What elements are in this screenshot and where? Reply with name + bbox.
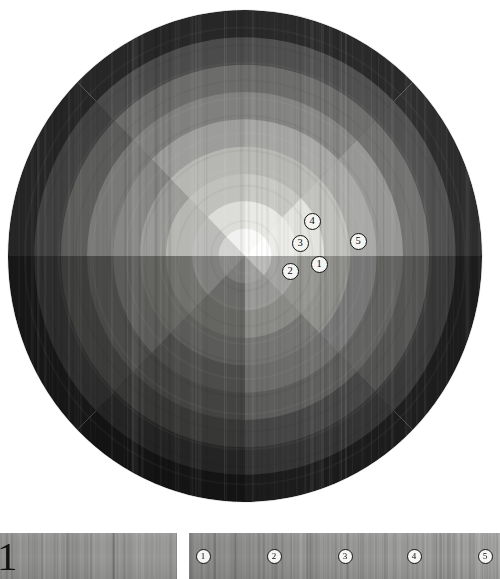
polar-marker-label: 4: [309, 216, 314, 227]
streak-line: [90, 0, 91, 512]
streak-line: [304, 0, 307, 512]
streak-line: [484, 0, 486, 512]
strip-marker-5[interactable]: 5: [478, 549, 493, 564]
streak-line: [1, 0, 3, 512]
streak-line: [477, 0, 478, 512]
streak-line: [451, 0, 453, 512]
streak-line: [432, 0, 435, 512]
streak-line: [240, 0, 243, 512]
streak-line: [309, 0, 310, 512]
streak-line: [190, 0, 192, 512]
streak-line: [77, 0, 79, 512]
streak-line: [128, 0, 130, 512]
streak-line: [324, 0, 326, 512]
streak-line: [168, 0, 170, 512]
streak-line: [336, 0, 338, 512]
streak-line: [287, 0, 289, 512]
streak-line: [132, 0, 135, 512]
streak-line: [385, 0, 386, 512]
streak-line: [226, 0, 227, 512]
streak-line: [73, 0, 74, 512]
streak-line: [95, 0, 96, 512]
streak-line: [376, 0, 379, 512]
streak-line: [124, 0, 125, 512]
streak-line: [416, 0, 418, 512]
streak-line: [5, 0, 7, 512]
streak-line: [454, 0, 457, 512]
streak-line: [274, 0, 275, 512]
streak-line: [49, 0, 50, 512]
strip-marker-label: 2: [272, 552, 277, 561]
streak-line: [410, 0, 412, 512]
streak-line: [111, 0, 113, 512]
polar-marker-2[interactable]: 2: [282, 263, 299, 280]
streak-line: [366, 0, 368, 512]
streak-line: [31, 0, 34, 512]
streak-line: [98, 0, 99, 512]
streak-line: [37, 0, 39, 512]
streak-line: [495, 0, 496, 512]
strip-marker-label: 4: [412, 552, 417, 561]
streak-line: [331, 0, 333, 512]
streak-line: [155, 0, 158, 512]
strip-marker-3[interactable]: 3: [338, 549, 353, 564]
polar-marker-1[interactable]: 1: [311, 256, 328, 273]
strip-marker-label: 3: [343, 552, 348, 561]
streak-line: [343, 0, 344, 512]
strip-marker-2[interactable]: 2: [267, 549, 282, 564]
polar-marker-5[interactable]: 5: [350, 233, 367, 250]
streak-line: [459, 0, 462, 512]
streak-line: [266, 0, 269, 512]
streak-line: [60, 0, 63, 512]
strip-left-label: 1: [0, 534, 18, 578]
polar-marker-label: 5: [355, 236, 360, 247]
streak-line: [339, 0, 342, 512]
streak-line: [13, 0, 14, 512]
streak-line: [441, 0, 442, 512]
streak-line: [371, 0, 372, 512]
streak-line: [408, 0, 410, 512]
streak-line: [333, 0, 335, 512]
streak-line: [383, 0, 384, 512]
streak-line: [44, 0, 47, 512]
streak-line: [256, 0, 258, 512]
figure-root: 12345 1 12345: [0, 0, 500, 579]
streak-line: [146, 0, 147, 512]
streak-line: [0, 0, 3, 512]
polar-marker-4[interactable]: 4: [304, 213, 321, 230]
streak-line: [195, 0, 197, 512]
streak-line: [472, 0, 475, 512]
streak-line: [224, 0, 225, 512]
streak-line: [162, 0, 165, 512]
polar-marker-3[interactable]: 3: [292, 235, 309, 252]
streak-line: [478, 0, 480, 512]
strip-marker-label: 5: [483, 552, 488, 561]
streak-line: [54, 0, 57, 512]
streak-line: [0, 0, 1, 512]
streak-line: [3, 0, 6, 512]
streak-line: [496, 0, 497, 512]
strip-left-canvas: [0, 533, 177, 579]
polar-marker-label: 2: [287, 266, 292, 277]
streak-line: [204, 0, 205, 512]
streak-line: [248, 0, 250, 512]
polar-marker-label: 1: [316, 259, 321, 270]
polar-marker-label: 3: [297, 238, 302, 249]
streak-line: [68, 0, 70, 512]
streak-line: [297, 0, 298, 512]
streak-line: [490, 0, 493, 512]
polar-plot-panel: 12345: [0, 0, 500, 512]
strip-panel-left: [0, 533, 177, 579]
streak-line: [438, 0, 441, 512]
bottom-strip-row: [0, 533, 500, 579]
streak-line: [198, 0, 201, 512]
streak-line: [96, 0, 98, 512]
strip-marker-1[interactable]: 1: [196, 549, 211, 564]
streak-line: [300, 0, 301, 512]
strip-marker-label: 1: [201, 552, 206, 561]
streak-line: [206, 0, 207, 512]
polar-plot-svg: [0, 0, 500, 512]
streak-line: [252, 0, 254, 512]
streak-line: [391, 0, 394, 512]
strip-marker-4[interactable]: 4: [407, 549, 422, 564]
